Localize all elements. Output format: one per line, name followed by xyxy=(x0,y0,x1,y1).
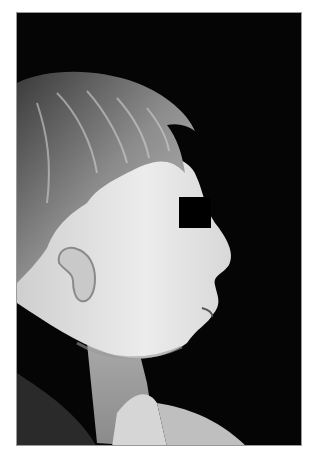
face-profile-illustration xyxy=(17,13,302,446)
profile-photo xyxy=(16,12,302,446)
shirt-right xyxy=(157,403,247,446)
eye-privacy-bar xyxy=(179,197,211,228)
shirt-left xyxy=(17,373,97,446)
